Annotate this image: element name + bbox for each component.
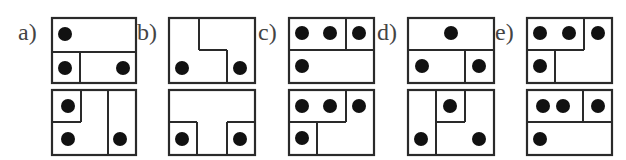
- option-label-c: c): [258, 20, 277, 44]
- dot-icon: [233, 132, 247, 146]
- dot-icon: [556, 99, 570, 113]
- dot-icon: [175, 61, 189, 75]
- dot-icon: [116, 61, 130, 75]
- option-c-bottom-figure: [289, 90, 374, 155]
- option-label-e: e): [495, 20, 514, 44]
- option-a-top-figure: [52, 18, 136, 83]
- option-a-bottom-figure: [52, 90, 136, 155]
- option-b-top-figure: [169, 18, 255, 83]
- dot-icon: [472, 132, 486, 146]
- dot-icon: [58, 27, 72, 41]
- dot-icon: [61, 99, 75, 113]
- dot-icon: [415, 59, 429, 73]
- dot-icon: [591, 99, 605, 113]
- option-label-a: a): [18, 20, 37, 44]
- dot-icon: [323, 99, 337, 113]
- option-label-b: b): [137, 20, 157, 44]
- option-d-bottom-figure: [408, 90, 494, 155]
- dot-icon: [533, 59, 547, 73]
- dot-icon: [562, 26, 576, 40]
- dot-icon: [295, 99, 309, 113]
- dot-icon: [414, 132, 428, 146]
- dot-icon: [352, 99, 366, 113]
- dot-icon: [175, 132, 189, 146]
- option-c-top-figure: [289, 18, 374, 83]
- dot-icon: [58, 61, 72, 75]
- dot-icon: [295, 59, 309, 73]
- option-d-top-figure: [408, 18, 494, 83]
- dot-icon: [61, 132, 75, 146]
- dot-icon: [295, 26, 309, 40]
- dot-icon: [352, 26, 366, 40]
- dot-icon: [472, 59, 486, 73]
- option-e-bottom-figure: [527, 90, 612, 155]
- dot-icon: [533, 132, 547, 146]
- dot-icon: [323, 26, 337, 40]
- dot-icon: [113, 132, 127, 146]
- dot-icon: [444, 26, 458, 40]
- dot-icon: [591, 26, 605, 40]
- dot-icon: [443, 99, 457, 113]
- dot-icon: [233, 61, 247, 75]
- dot-icon: [533, 26, 547, 40]
- option-label-d: d): [377, 20, 397, 44]
- dot-icon: [536, 99, 550, 113]
- dot-icon: [295, 131, 309, 145]
- option-e-top-figure: [527, 18, 612, 83]
- option-b-bottom-figure: [169, 90, 255, 155]
